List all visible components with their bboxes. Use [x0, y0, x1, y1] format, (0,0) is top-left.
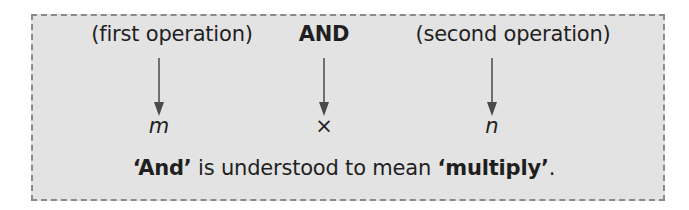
- summary-text: is understood to mean: [192, 156, 438, 180]
- symbol-m: m: [149, 114, 169, 138]
- symbol-n: n: [485, 114, 498, 138]
- down-arrow-icon: [318, 58, 330, 118]
- multiply-symbol: ×: [315, 114, 333, 138]
- summary-multiply-word: ‘multiply’: [438, 156, 549, 180]
- summary-sentence: ‘And’ is understood to mean ‘multiply’.: [133, 156, 555, 180]
- summary-period: .: [549, 156, 555, 180]
- down-arrow-icon: [486, 58, 498, 118]
- down-arrow-icon: [153, 58, 165, 118]
- second-operation-label: (second operation): [415, 22, 610, 46]
- first-operation-label: (first operation): [91, 22, 253, 46]
- and-label: AND: [299, 22, 350, 46]
- summary-and-word: ‘And’: [133, 156, 192, 180]
